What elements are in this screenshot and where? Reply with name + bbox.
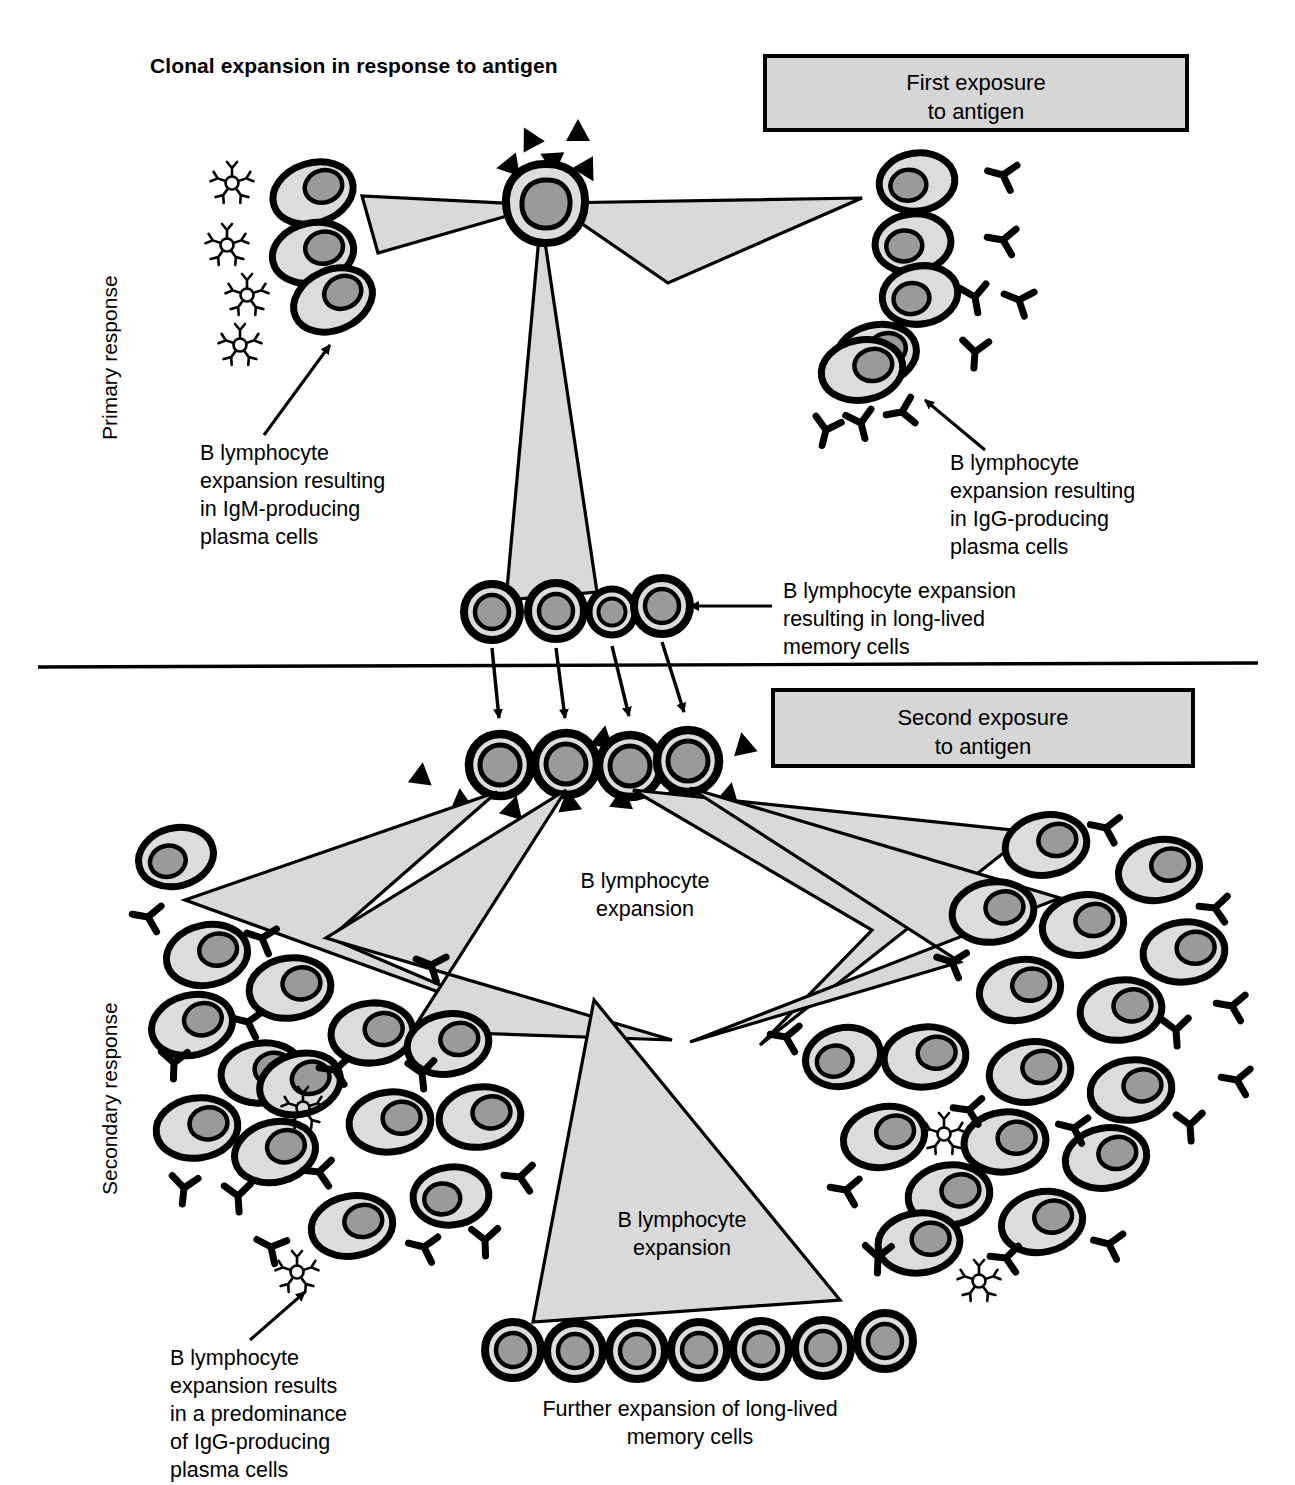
leader-igg [925, 400, 985, 450]
leader-igg-predominance [250, 1292, 305, 1340]
primary-response-label: Primary response [96, 275, 123, 440]
secondary-response-label: Secondary response [96, 1002, 123, 1195]
igm-plasma-caption: B lymphocyte expansion resulting in IgM-… [200, 440, 385, 552]
activated-b-cell [506, 164, 585, 243]
second-exposure-label: Second exposure to antigen [775, 703, 1191, 762]
diagram-stage: Clonal expansion in response to antigen … [0, 0, 1295, 1485]
first-exposure-label: First exposure to antigen [767, 68, 1185, 127]
igm-antibodies-primary [205, 162, 268, 365]
memory-cells-bottom [485, 1313, 913, 1379]
expansion-caption-upper: B lymphocyte expansion [540, 868, 750, 924]
igg-predominance-caption: B lymphocyte expansion results in a pred… [170, 1345, 347, 1485]
further-memory-caption: Further expansion of long-lived memory c… [470, 1396, 910, 1452]
igg-plasma-cells [816, 148, 962, 407]
igm-plasma-cells [265, 152, 383, 344]
first-exposure-box: First exposure to antigen [763, 54, 1189, 132]
leader-igm [264, 345, 330, 435]
memory-cells-caption: B lymphocyte expansion resulting in long… [783, 578, 1016, 662]
section-divider [38, 663, 1258, 667]
primary-expansion-wedges [362, 196, 862, 600]
memory-descend-arrows [492, 642, 684, 718]
igg-plasma-caption: B lymphocyte expansion resulting in IgG-… [950, 450, 1135, 562]
figure-canvas: Clonal expansion in response to antigen … [0, 0, 1295, 1485]
memory-cells-primary [464, 578, 690, 640]
figure-title: Clonal expansion in response to antigen [150, 52, 558, 79]
expansion-caption-lower: B lymphocyte expansion [577, 1207, 787, 1263]
second-exposure-box: Second exposure to antigen [771, 688, 1195, 768]
